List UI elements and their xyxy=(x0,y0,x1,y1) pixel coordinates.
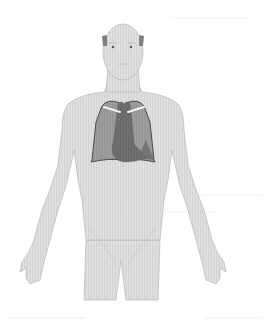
anatomy-figure xyxy=(0,0,269,324)
body-silhouette xyxy=(20,24,226,300)
body-diagram xyxy=(0,0,269,324)
